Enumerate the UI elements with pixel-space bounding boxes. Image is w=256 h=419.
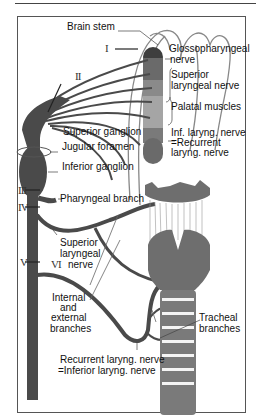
label-jugular-foramen: Jugular foramen <box>62 142 134 152</box>
label-tracheal: Tracheal <box>199 313 238 323</box>
label-recurrent-laryng: Recurrent laryng. nerve <box>60 355 165 365</box>
label-glossopharyngeal: Glossopharyngeal <box>169 44 250 54</box>
label-palatal-muscles: Palatal muscles <box>171 102 241 112</box>
label-external: external <box>51 313 87 323</box>
pharyngeal-muscle-column <box>143 47 163 164</box>
label-glossopharyngeal-nerve: nerve <box>170 55 195 65</box>
label-superior-laryngeal-2: laryngeal <box>60 249 101 259</box>
label-inferior-ganglion: Inferior ganglion <box>62 162 134 172</box>
label-superior-laryngeal-3: nerve <box>68 260 93 270</box>
superior-laryngeal-nerve <box>37 204 155 231</box>
label-branches: branches <box>50 324 91 334</box>
roman-numeral-II: II <box>75 70 80 82</box>
label-superior-laryngeal-top-1: Superior <box>171 70 209 80</box>
label-inferior-laryng: =Inferior laryng. nerve <box>58 366 156 376</box>
roman-numeral-IV: IV <box>18 201 28 213</box>
trachea <box>160 290 196 415</box>
label-superior-laryngeal-top-2: laryngeal nerve <box>171 81 239 91</box>
roman-numeral-VI: VI <box>51 258 61 270</box>
label-inf-laryng-recurrent-2: laryng. nerve <box>171 148 229 158</box>
label-superior-laryngeal-1: Superior <box>60 238 98 248</box>
larynx <box>145 180 210 294</box>
label-brain-stem: Brain stem <box>67 22 115 32</box>
label-superior-ganglion: Superior ganglion <box>63 127 141 137</box>
label-pharyngeal-branch: Pharyngeal branch <box>60 194 144 204</box>
roman-numeral-I: I <box>105 42 108 54</box>
roman-numeral-III: III <box>18 184 26 196</box>
label-tracheal-branches: branches <box>199 324 240 334</box>
roman-numeral-V: V <box>20 256 27 268</box>
